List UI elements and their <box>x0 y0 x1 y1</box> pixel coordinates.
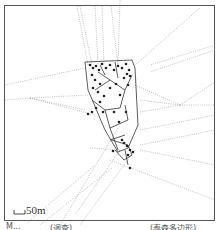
caption-middle: (调查) <box>50 222 72 230</box>
unbounded-edges <box>5 0 215 225</box>
voronoi-diagram <box>0 0 220 230</box>
caption-right: (泰森多边形) <box>150 222 196 230</box>
scale-bar-label: 50m <box>26 204 46 216</box>
scale-bar <box>14 210 25 214</box>
caption-left: M... <box>6 222 21 230</box>
